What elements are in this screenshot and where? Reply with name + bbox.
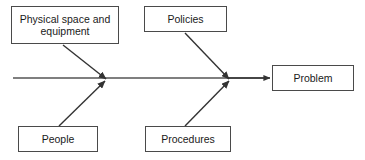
bone-procedures bbox=[185, 81, 229, 126]
cause-box-physical-space[interactable]: Physical space and equipment bbox=[11, 6, 119, 44]
cause-label-people: People bbox=[19, 133, 97, 146]
bone-people bbox=[59, 81, 105, 126]
cause-box-procedures[interactable]: Procedures bbox=[145, 126, 231, 152]
cause-label-physical-space: Physical space and equipment bbox=[12, 13, 118, 38]
cause-box-policies[interactable]: Policies bbox=[144, 6, 227, 32]
cause-label-policies: Policies bbox=[145, 13, 226, 26]
cause-label-procedures: Procedures bbox=[146, 133, 230, 146]
effect-label-problem: Problem bbox=[273, 72, 353, 85]
cause-box-people[interactable]: People bbox=[18, 126, 98, 152]
effect-box-problem[interactable]: Problem bbox=[272, 65, 354, 91]
bone-physical-space bbox=[63, 45, 106, 79]
fishbone-diagram: Physical space and equipment Policies Pe… bbox=[0, 0, 365, 160]
bone-policies bbox=[185, 33, 229, 79]
